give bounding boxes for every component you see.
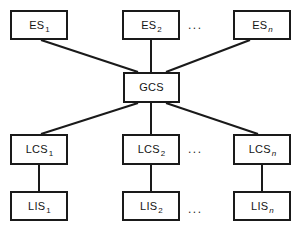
node-lis2[interactable]: LIS2 <box>122 191 180 221</box>
lcs-row-ellipsis: ... <box>188 143 203 155</box>
node-label-subscript-lis2: 2 <box>158 206 163 215</box>
es-row-ellipsis: ... <box>188 19 203 31</box>
node-label-base-esn: ES <box>252 19 267 31</box>
node-label-base-lcs1: LCS <box>26 143 48 155</box>
node-label-base-lisn: LIS <box>251 200 268 212</box>
connector-gcs-lcs1 <box>41 103 138 134</box>
node-label-es1: ES1 <box>29 20 49 31</box>
node-es2[interactable]: ES2 <box>122 10 180 40</box>
node-lcsn[interactable]: LCSn <box>233 134 291 165</box>
node-label-subscript-lisn: n <box>269 206 274 215</box>
node-es1[interactable]: ES1 <box>10 10 68 40</box>
connector-esn-gcs <box>166 40 250 72</box>
node-lcs1[interactable]: LCS1 <box>10 134 68 165</box>
node-label-lcs2: LCS2 <box>138 144 165 155</box>
node-label-subscript-es1: 1 <box>45 25 50 34</box>
node-label-subscript-lcs2: 2 <box>161 149 166 158</box>
node-label-gcs: GCS <box>139 82 163 93</box>
diagram-canvas: ES1ES2ESnGCSLCS1LCS2LCSnLIS1LIS2LISn ...… <box>0 0 299 231</box>
node-label-lcs1: LCS1 <box>26 144 53 155</box>
node-label-base-es1: ES <box>29 19 44 31</box>
connector-gcs-lcsn <box>166 103 258 134</box>
node-lcs2[interactable]: LCS2 <box>122 134 180 165</box>
node-label-base-lcsn: LCS <box>249 143 271 155</box>
node-label-base-lis2: LIS <box>140 200 157 212</box>
node-label-esn: ESn <box>252 20 272 31</box>
node-label-lis2: LIS2 <box>140 201 162 212</box>
node-label-subscript-esn: n <box>268 25 273 34</box>
node-label-subscript-es2: 2 <box>157 25 162 34</box>
node-label-subscript-lis1: 1 <box>46 206 51 215</box>
node-label-lis1: LIS1 <box>28 201 50 212</box>
node-label-es2: ES2 <box>141 20 161 31</box>
node-label-subscript-lcsn: n <box>272 149 277 158</box>
node-gcs[interactable]: GCS <box>123 72 180 103</box>
node-label-base-es2: ES <box>141 19 156 31</box>
node-esn[interactable]: ESn <box>233 10 291 40</box>
node-label-lcsn: LCSn <box>249 144 276 155</box>
connector-es1-gcs <box>41 40 138 72</box>
node-label-base-gcs: GCS <box>139 81 163 93</box>
node-lisn[interactable]: LISn <box>233 191 291 221</box>
node-label-base-lis1: LIS <box>28 200 45 212</box>
node-label-base-lcs2: LCS <box>138 143 160 155</box>
node-lis1[interactable]: LIS1 <box>10 191 68 221</box>
node-label-subscript-lcs1: 1 <box>49 149 54 158</box>
node-label-lisn: LISn <box>251 201 273 212</box>
lis-row-ellipsis: ... <box>188 203 203 215</box>
